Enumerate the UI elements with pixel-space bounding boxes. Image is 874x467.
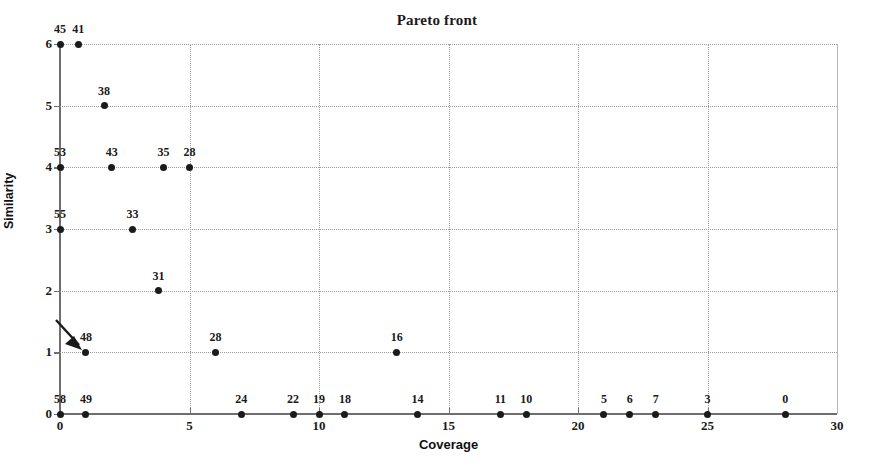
data-point-label: 22 <box>287 392 299 407</box>
data-point <box>290 411 297 418</box>
plot-area: 0123456 051015202530 4541385343352855333… <box>60 44 837 414</box>
data-point <box>238 411 245 418</box>
data-point <box>57 164 64 171</box>
data-point <box>82 411 89 418</box>
y-axis-tick-label: 5 <box>46 98 53 114</box>
y-axis-tick-label: 2 <box>46 283 53 299</box>
x-axis-tick-label: 30 <box>831 418 844 434</box>
x-axis-tick <box>578 408 579 414</box>
data-point-label: 49 <box>80 392 92 407</box>
data-point <box>626 411 633 418</box>
data-point <box>155 287 162 294</box>
data-point-label: 3 <box>705 392 711 407</box>
data-point <box>57 41 64 48</box>
x-axis-tick-label: 15 <box>442 418 455 434</box>
x-axis-tick-label: 10 <box>313 418 326 434</box>
data-point-label: 43 <box>106 145 118 160</box>
y-axis-tick-label: 1 <box>46 344 53 360</box>
y-axis-tick <box>54 106 60 107</box>
data-point-label: 58 <box>54 392 66 407</box>
data-point-label: 24 <box>235 392 247 407</box>
gridline-vertical <box>449 44 450 414</box>
data-point-label: 35 <box>158 145 170 160</box>
y-axis-tick-label: 0 <box>46 406 53 422</box>
data-point <box>316 411 323 418</box>
data-point-label: 18 <box>339 392 351 407</box>
data-point-label: 6 <box>627 392 633 407</box>
data-point <box>212 349 219 356</box>
x-axis-tick-label: 20 <box>572 418 585 434</box>
data-point <box>129 226 136 233</box>
data-point-label: 10 <box>520 392 532 407</box>
data-point <box>57 411 64 418</box>
data-point <box>497 411 504 418</box>
data-point-label: 28 <box>184 145 196 160</box>
data-point <box>652 411 659 418</box>
data-point <box>341 411 348 418</box>
data-point-label: 38 <box>98 84 110 99</box>
data-point <box>704 411 711 418</box>
data-point-label: 5 <box>601 392 607 407</box>
x-axis-tick-label: 25 <box>701 418 714 434</box>
data-point-label: 31 <box>152 269 164 284</box>
data-point <box>57 226 64 233</box>
pareto-front-chart: Pareto front 0123456 051015202530 454138… <box>0 0 874 467</box>
y-axis-title: Similarity <box>2 173 16 229</box>
x-axis-tick <box>190 408 191 414</box>
gridline-vertical <box>578 44 579 414</box>
data-point <box>82 349 89 356</box>
data-point-label: 45 <box>54 22 66 37</box>
data-point <box>523 411 530 418</box>
gridline-vertical <box>708 44 709 414</box>
data-point <box>414 411 421 418</box>
y-axis-tick-label: 6 <box>46 36 53 52</box>
x-axis-tick <box>449 408 450 414</box>
data-point-label: 28 <box>209 330 221 345</box>
data-point-label: 19 <box>313 392 325 407</box>
data-point <box>75 41 82 48</box>
data-point-label: 11 <box>495 392 506 407</box>
data-point-label: 48 <box>80 330 92 345</box>
y-axis-tick <box>54 352 60 353</box>
data-point-label: 55 <box>54 207 66 222</box>
data-point-label: 14 <box>411 392 423 407</box>
data-point-label: 16 <box>391 330 403 345</box>
x-axis-tick-label: 0 <box>57 418 64 434</box>
gridline-vertical <box>190 44 191 414</box>
data-point <box>108 164 115 171</box>
data-point <box>101 102 108 109</box>
data-point-label: 0 <box>782 392 788 407</box>
data-point-label: 53 <box>54 145 66 160</box>
x-axis-title: Coverage <box>60 437 837 452</box>
data-point <box>160 164 167 171</box>
y-axis-tick <box>54 291 60 292</box>
gridline-vertical <box>319 44 320 414</box>
data-point <box>186 164 193 171</box>
y-axis-tick-label: 3 <box>46 221 53 237</box>
data-point <box>782 411 789 418</box>
plot-right-border <box>837 44 838 414</box>
data-point-label: 41 <box>72 22 84 37</box>
data-point <box>600 411 607 418</box>
y-axis-tick-label: 4 <box>46 159 53 175</box>
data-point <box>393 349 400 356</box>
data-point-label: 33 <box>127 207 139 222</box>
x-axis-tick-label: 5 <box>186 418 193 434</box>
chart-title: Pareto front <box>0 12 874 29</box>
data-point-label: 7 <box>653 392 659 407</box>
